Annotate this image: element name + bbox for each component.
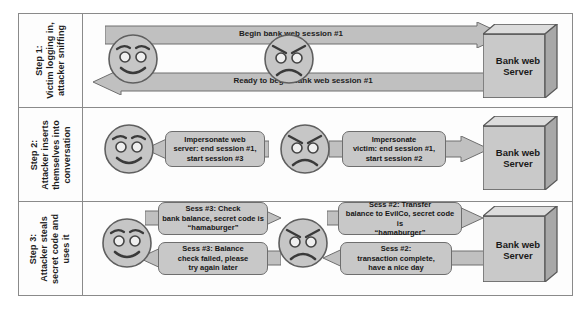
- step-3-message-2-line-3: “hamaburger”: [342, 228, 458, 238]
- step-3-label: Step 3: Attacker steals secret code and …: [29, 213, 73, 283]
- step-3-message-4-line-3: have a nice day: [357, 263, 435, 273]
- step-1-label-line-1: Step 1:: [34, 22, 45, 99]
- step-2-message-1-line-3: start session #3: [174, 154, 257, 164]
- victim-smiley-face: [101, 217, 153, 269]
- bank-web-server-box-step-2: Bank web Server: [483, 116, 567, 194]
- step-3-message-3-box: Sess #3: Balance check failed, please tr…: [158, 242, 268, 275]
- step-2-message-2-line-3: start session #2: [353, 154, 435, 164]
- step-3-message-2-box: Sess #2: Transfer balance to EvilCo, sec…: [338, 202, 462, 235]
- victim-smiley-face: [107, 33, 159, 85]
- step-row-3: Step 3: Attacker steals secret code and …: [19, 202, 572, 295]
- step-3-message-1-line-2: bank balance, secret code is: [162, 214, 264, 224]
- bank-web-server-box-step-3: Bank web Server: [483, 206, 567, 286]
- step-3-label-cell: Step 3: Attacker steals secret code and …: [19, 202, 83, 295]
- step-2-message-1-line-2: server: end session #1,: [174, 144, 257, 154]
- step-3-label-line-2: Attacker steals: [40, 213, 51, 283]
- step-2-scene: Impersonate web server: end session #1, …: [83, 108, 572, 201]
- step-1-label-line-2: Victim logging in,: [45, 22, 56, 99]
- step-1-label: Step 1: Victim logging in, attacker snif…: [34, 22, 67, 99]
- step-3-message-4-line-1: Sess #2:: [357, 244, 435, 254]
- step-1-label-cell: Step 1: Victim logging in, attacker snif…: [19, 14, 83, 107]
- step-2-message-1-box: Impersonate web server: end session #1, …: [165, 131, 265, 167]
- step-2-message-2-box: Impersonate victim: end session #1, star…: [342, 131, 446, 167]
- step-2-label-line-3: themselves into: [51, 120, 62, 190]
- step-2-message-2-line-1: Impersonate: [353, 135, 435, 145]
- step-3-message-3-line-2: check failed, please: [178, 254, 248, 264]
- step-3-scene: Sess #3: Check bank balance, secret code…: [83, 202, 572, 295]
- step-3-label-line-4: uses it: [62, 213, 73, 283]
- step-3-message-4-line-2: transaction complete,: [357, 254, 435, 264]
- step-2-label-cell: Step 2: Attacker inserts themselves into…: [19, 108, 83, 201]
- step-1-scene: Begin bank web session #1 Ready to begin…: [83, 14, 572, 107]
- attacker-angry-face: [263, 33, 315, 85]
- attacker-angry-face: [279, 123, 331, 175]
- step-2-label-line-4: conversation: [62, 120, 73, 190]
- mitm-attack-diagram: Step 1: Victim logging in, attacker snif…: [18, 13, 573, 296]
- step-2-label-line-1: Step 2:: [29, 120, 40, 190]
- step-2-message-2-line-2: victim: end session #1,: [353, 144, 435, 154]
- victim-smiley-face: [103, 123, 155, 175]
- attacker-angry-face: [277, 217, 329, 269]
- step-3-label-line-3: secret code and: [51, 213, 62, 283]
- bank-web-server-box-step-1: Bank web Server: [483, 24, 567, 102]
- step-3-message-2-line-2: balance to EvilCo, secret code is: [342, 209, 458, 228]
- step-3-message-2-line-1: Sess #2: Transfer: [342, 202, 458, 209]
- step-3-message-1-line-3: “hamaburger”: [162, 223, 264, 233]
- step-3-message-4-box: Sess #2: transaction complete, have a ni…: [340, 242, 452, 275]
- step-3-message-3-line-3: try again later: [178, 263, 248, 273]
- step-3-label-line-1: Step 3:: [29, 213, 40, 283]
- step-2-label: Step 2: Attacker inserts themselves into…: [29, 120, 73, 190]
- step-3-message-1-box: Sess #3: Check bank balance, secret code…: [158, 202, 268, 235]
- step-1-label-line-3: attacker sniffing: [56, 22, 67, 99]
- step-3-message-3-line-1: Sess #3: Balance: [178, 244, 248, 254]
- step-3-message-1-line-1: Sess #3: Check: [162, 204, 264, 214]
- step-row-2: Step 2: Attacker inserts themselves into…: [19, 108, 572, 202]
- step-2-label-line-2: Attacker inserts: [40, 120, 51, 190]
- step-2-message-1-line-1: Impersonate web: [174, 135, 257, 145]
- step-row-1: Step 1: Victim logging in, attacker snif…: [19, 14, 572, 108]
